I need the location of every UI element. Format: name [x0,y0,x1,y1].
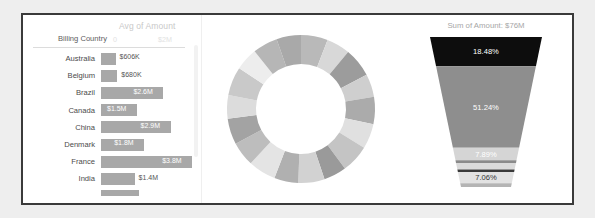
funnel-segment-label: 7.89% [475,150,497,159]
bar-row-label: India [23,174,101,183]
billing-country-header[interactable]: Billing Country [58,34,107,43]
bar-fill[interactable] [101,190,139,196]
bar-value-label: $606K [120,53,140,60]
donut-chart[interactable] [225,33,377,185]
bar-chart-panel: Avg of Amount Billing Country 0 $2M Aust… [23,15,201,203]
bar-row-label: Belgium [23,71,101,80]
bar-chart-scrollbar[interactable] [194,45,198,157]
bar-row-label: Canada [23,106,101,115]
bar-row-track: $1.8M [101,136,201,153]
funnel-segment-label: 51.24% [473,103,499,112]
bar-value-label: $3.8M [162,157,181,164]
bar-row[interactable]: Australia$606K [23,50,201,67]
funnel-segment[interactable] [460,183,512,187]
funnel-segment[interactable] [456,163,516,170]
bar-row[interactable]: France$3.8M [23,153,201,170]
bar-row-track: $1.4M [101,170,201,187]
bar-row-label: France [23,157,101,166]
bar-row-track: $2.6M [101,84,201,101]
bar-row[interactable]: Canada$1.5M [23,102,201,119]
bar-row-label: China [23,123,101,132]
bar-fill[interactable] [101,87,163,99]
bar-chart-rows: Australia$606KBelgium$680KBrazil$2.6MCan… [23,50,201,203]
bar-value-label: $1.8M [114,139,133,146]
funnel-segment-label: 7.06% [475,173,497,182]
bar-value-label: $680K [121,71,141,78]
funnel-chart-body: 18.48%51.24%7.89%7.06% [400,35,572,193]
bar-row-label: Brazil [23,88,101,97]
bar-row-track [101,188,201,204]
bar-fill[interactable] [101,70,117,82]
bar-fill[interactable] [101,121,171,133]
funnel-chart-title: Sum of Amount: $76M [400,21,572,30]
donut-chart-panel [201,15,400,203]
funnel-chart[interactable]: 18.48%51.24%7.89%7.06% [426,35,546,193]
bar-row-track: $1.5M [101,102,201,119]
bar-row[interactable]: India$1.4M [23,170,201,187]
bar-fill[interactable] [101,53,116,65]
funnel-segment[interactable] [457,170,514,172]
bar-row-label: Denmark [23,140,101,149]
bar-row[interactable]: Brazil$2.6M [23,84,201,101]
bar-chart-title: Avg of Amount [119,21,175,31]
axis-divider [33,47,185,48]
bar-fill[interactable] [101,173,135,185]
bar-value-label: $2.6M [133,88,152,95]
bar-value-label: $2.9M [141,122,160,129]
axis-tick-zero: 0 [113,35,117,44]
bar-row-track: $2.9M [101,119,201,136]
dashboard-card: Avg of Amount Billing Country 0 $2M Aust… [21,13,574,205]
bar-row[interactable]: China$2.9M [23,119,201,136]
funnel-segment[interactable] [455,160,516,163]
axis-tick-max: $2M [158,35,172,44]
bar-value-label: $1.5M [107,105,126,112]
funnel-chart-panel: Sum of Amount: $76M 18.48%51.24%7.89%7.0… [400,15,572,203]
bar-chart-axis-header: Billing Country 0 $2M [33,34,193,46]
bar-value-label: $1.4M [139,174,158,181]
bar-row-track: $680K [101,67,201,84]
bar-row[interactable]: Denmark$1.8M [23,136,201,153]
bar-row-label: Australia [23,54,101,63]
bar-row[interactable]: Belgium$680K [23,67,201,84]
funnel-segment-label: 18.48% [473,47,499,56]
bar-row-clipped[interactable] [23,188,201,204]
bar-row-track: $3.8M [101,153,201,170]
bar-row-track: $606K [101,50,201,67]
